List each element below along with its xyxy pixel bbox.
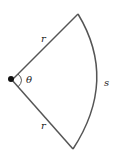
angle-arc — [18, 74, 22, 87]
label-radius-bottom: r — [41, 120, 47, 131]
label-arc-s: s — [104, 77, 109, 88]
label-radius-top: r — [41, 33, 47, 44]
sector-diagram: r θ s r — [0, 0, 121, 159]
label-angle-theta: θ — [26, 74, 32, 85]
radius-bottom-line — [12, 80, 73, 149]
arc-s — [73, 14, 97, 149]
center-vertex-dot — [8, 76, 14, 82]
radius-top-line — [12, 14, 78, 80]
